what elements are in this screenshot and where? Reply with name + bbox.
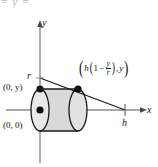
- open-paren: (: [79, 60, 83, 76]
- fraction-y-over-r: y r: [106, 60, 111, 76]
- radius-label: r: [27, 71, 31, 81]
- x-axis-label: x: [147, 105, 151, 115]
- point-marker-origin: [36, 106, 43, 113]
- fraction-numerator: y: [106, 60, 111, 68]
- diagram-canvas: [0, 0, 158, 167]
- y-symbol: y: [118, 64, 123, 73]
- fraction-denominator: r: [106, 69, 111, 77]
- figure-root: = y =: [0, 0, 158, 167]
- y-axis-label: y: [42, 18, 46, 28]
- point-label-origin: (0, 0): [3, 121, 23, 130]
- point-label-curve: ( h ( 1 − y r ) , y ): [78, 60, 130, 76]
- point-marker-0y: [36, 85, 43, 92]
- h-symbol: h: [84, 64, 89, 73]
- inner-close-paren: ): [112, 62, 115, 74]
- point-marker-curve: [74, 85, 81, 92]
- minus-sign: −: [98, 64, 105, 73]
- inner-open-paren: (: [90, 62, 93, 74]
- close-paren: ): [124, 60, 128, 76]
- point-label-0-y: (0, y): [3, 83, 23, 92]
- height-label: h: [122, 118, 127, 128]
